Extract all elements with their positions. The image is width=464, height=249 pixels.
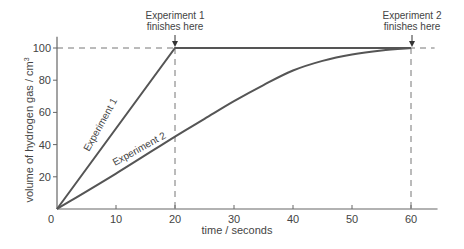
y-tick-label: 60 [39,106,51,118]
chart: 010203040506020406080100 Experiment 1Exp… [0,0,464,249]
experiment-1-line [57,48,411,209]
x-tick-label: 0 [48,213,54,225]
experiment-2-line-label: Experiment 2 [111,129,168,167]
x-tick-label: 20 [169,213,181,225]
annotation-text: Experiment 1 [146,10,205,21]
x-axis-label: time / seconds [202,224,273,236]
experiment-1-line-label: Experiment 1 [81,96,119,153]
y-tick-label: 20 [39,171,51,183]
x-tick-label: 40 [287,213,299,225]
annotation-text: Experiment 2 [383,10,442,21]
y-tick-label: 40 [39,139,51,151]
annotation-2: Experiment 2finishes here [383,10,442,47]
annotation-text: finishes here [147,21,204,32]
experiment-2-curve [57,48,411,209]
y-axis-label: volume of hydrogen gas / cm3 [23,57,35,202]
x-tick-label: 10 [110,213,122,225]
arrow-head-icon [409,41,415,47]
reference-lines [57,48,435,209]
x-tick-label: 60 [405,213,417,225]
y-tick-label: 80 [39,74,51,86]
annotation-1: Experiment 1finishes here [146,10,205,47]
data-series: Experiment 1Experiment 2 [57,48,411,209]
arrow-head-icon [172,41,178,47]
x-tick-label: 50 [346,213,358,225]
annotation-text: finishes here [384,21,441,32]
annotations: Experiment 1finishes hereExperiment 2fin… [146,10,442,47]
y-tick-label: 100 [33,42,51,54]
